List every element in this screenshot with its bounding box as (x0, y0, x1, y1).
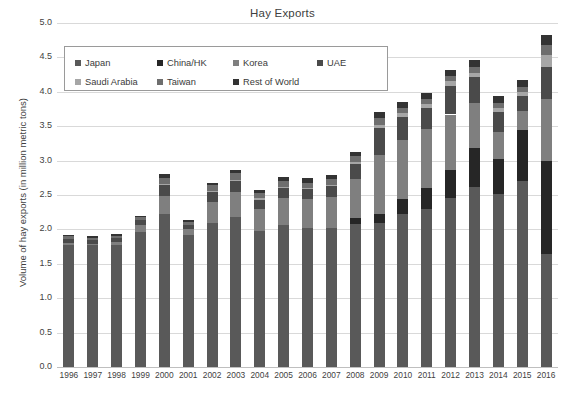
bar-segment[interactable] (469, 187, 480, 367)
bar-segment[interactable] (517, 96, 528, 111)
bar-segment[interactable] (207, 223, 218, 367)
bar-segment[interactable] (183, 225, 194, 230)
bar-segment[interactable] (445, 70, 456, 76)
bar-segment[interactable] (111, 238, 122, 242)
bar-column[interactable] (445, 23, 456, 367)
bar-segment[interactable] (397, 117, 408, 140)
legend-item[interactable]: Saudi Arabia (75, 77, 138, 87)
bar-segment[interactable] (421, 129, 432, 188)
bar-segment[interactable] (111, 234, 122, 235)
bar-segment[interactable] (493, 108, 504, 111)
bar-segment[interactable] (278, 188, 289, 198)
bar-segment[interactable] (517, 181, 528, 367)
bar-segment[interactable] (350, 152, 361, 156)
bar-segment[interactable] (445, 170, 456, 199)
bar-segment[interactable] (421, 188, 432, 209)
bar-segment[interactable] (87, 245, 98, 367)
bar-segment[interactable] (230, 170, 241, 173)
bar-segment[interactable] (159, 196, 170, 214)
bar-segment[interactable] (183, 229, 194, 235)
bar-segment[interactable] (445, 81, 456, 85)
bar-segment[interactable] (469, 73, 480, 77)
bar-segment[interactable] (87, 238, 98, 241)
bar-segment[interactable] (135, 217, 146, 220)
bar-segment[interactable] (111, 245, 122, 367)
bar-segment[interactable] (87, 240, 98, 243)
bar-segment[interactable] (159, 214, 170, 367)
bar-segment[interactable] (469, 77, 480, 103)
bar-segment[interactable] (87, 244, 98, 245)
bar-segment[interactable] (302, 188, 313, 189)
bar-segment[interactable] (493, 159, 504, 193)
bar-segment[interactable] (469, 103, 480, 148)
bar-segment[interactable] (517, 92, 528, 95)
bar-segment[interactable] (350, 156, 361, 162)
bar-segment[interactable] (397, 108, 408, 114)
legend-item[interactable]: China/HK (157, 58, 207, 68)
bar-segment[interactable] (135, 216, 146, 217)
bar-column[interactable] (421, 23, 432, 367)
bar-segment[interactable] (302, 183, 313, 189)
bar-segment[interactable] (397, 214, 408, 367)
bar-segment[interactable] (207, 192, 218, 202)
bar-segment[interactable] (445, 76, 456, 82)
bar-segment[interactable] (254, 200, 265, 210)
bar-segment[interactable] (135, 232, 146, 367)
bar-segment[interactable] (183, 222, 194, 225)
legend-item[interactable]: Rest of World (233, 77, 299, 87)
bar-segment[interactable] (302, 189, 313, 199)
bar-segment[interactable] (183, 235, 194, 367)
bar-segment[interactable] (421, 93, 432, 99)
bar-segment[interactable] (230, 180, 241, 181)
bar-segment[interactable] (230, 217, 241, 367)
bar-segment[interactable] (445, 115, 456, 170)
bar-segment[interactable] (541, 35, 552, 45)
bar-segment[interactable] (63, 245, 74, 367)
bar-segment[interactable] (278, 187, 289, 188)
bar-segment[interactable] (374, 118, 385, 125)
bar-column[interactable] (541, 23, 552, 367)
bar-segment[interactable] (374, 112, 385, 118)
bar-column[interactable] (493, 23, 504, 367)
bar-segment[interactable] (159, 184, 170, 185)
bar-segment[interactable] (541, 161, 552, 255)
bar-segment[interactable] (541, 67, 552, 99)
bar-segment[interactable] (517, 111, 528, 130)
bar-segment[interactable] (254, 231, 265, 367)
bar-segment[interactable] (493, 103, 504, 109)
bar-column[interactable] (517, 23, 528, 367)
bar-segment[interactable] (278, 225, 289, 367)
bar-segment[interactable] (326, 228, 337, 367)
bar-segment[interactable] (374, 125, 385, 128)
bar-segment[interactable] (183, 220, 194, 221)
bar-segment[interactable] (159, 185, 170, 196)
bar-segment[interactable] (374, 128, 385, 156)
bar-segment[interactable] (254, 190, 265, 193)
bar-segment[interactable] (421, 104, 432, 108)
bar-segment[interactable] (493, 194, 504, 367)
bar-segment[interactable] (207, 202, 218, 223)
bar-segment[interactable] (278, 177, 289, 180)
bar-segment[interactable] (350, 164, 361, 179)
bar-segment[interactable] (230, 192, 241, 217)
bar-segment[interactable] (350, 224, 361, 367)
bar-segment[interactable] (541, 55, 552, 67)
bar-segment[interactable] (517, 130, 528, 181)
bar-segment[interactable] (397, 102, 408, 108)
bar-segment[interactable] (302, 178, 313, 182)
bar-segment[interactable] (159, 178, 170, 184)
bar-segment[interactable] (374, 214, 385, 222)
bar-segment[interactable] (63, 236, 74, 239)
bar-segment[interactable] (326, 186, 337, 197)
bar-segment[interactable] (302, 199, 313, 228)
bar-segment[interactable] (111, 236, 122, 239)
bar-segment[interactable] (254, 193, 265, 199)
bar-segment[interactable] (421, 99, 432, 105)
bar-segment[interactable] (469, 67, 480, 73)
bar-segment[interactable] (135, 220, 146, 226)
bar-segment[interactable] (517, 87, 528, 93)
bar-segment[interactable] (302, 228, 313, 367)
bar-segment[interactable] (493, 112, 504, 133)
bar-segment[interactable] (207, 191, 218, 192)
bar-segment[interactable] (541, 254, 552, 367)
